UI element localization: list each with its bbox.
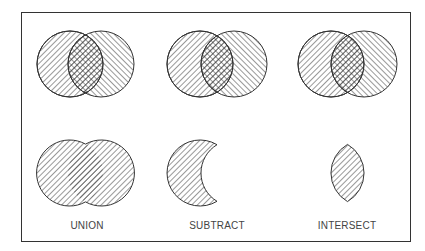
intersect-input-circles bbox=[298, 31, 397, 97]
intersect-result-shape bbox=[331, 140, 397, 206]
subtract-label: SUBTRACT bbox=[167, 220, 267, 231]
union-input-circles bbox=[37, 31, 134, 97]
subtract-result-shape bbox=[167, 140, 233, 206]
boolean-operations-diagram bbox=[0, 0, 425, 251]
subtract-input-circles bbox=[167, 31, 267, 97]
intersect-label: INTERSECT bbox=[297, 220, 397, 231]
union-label: UNION bbox=[37, 220, 137, 231]
union-result-shape bbox=[37, 140, 135, 206]
